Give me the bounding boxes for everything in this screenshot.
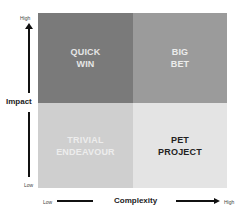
quadrant-big-bet: BIG BET [133, 13, 227, 103]
x-axis-line-right [176, 200, 214, 202]
quadrant-trivial-endeavour: TRIVIAL ENDEAVOUR [38, 103, 133, 188]
y-axis-line-lower [28, 112, 30, 177]
x-axis-arrow-icon [214, 198, 220, 204]
quadrant-label: BIG BET [171, 46, 190, 70]
x-axis-low-label: Low [43, 199, 52, 205]
x-axis-line-left [57, 200, 93, 202]
quadrant-label: TRIVIAL ENDEAVOUR [56, 134, 115, 158]
quadrant-label: PET PROJECT [158, 134, 202, 158]
y-axis-low-label: Low [24, 182, 33, 188]
y-axis-high-label: High [20, 15, 30, 21]
y-axis-title: Impact [6, 97, 32, 106]
y-axis-line-upper [28, 28, 30, 93]
x-axis-title: Complexity [114, 196, 157, 205]
quadrant-quick-win: QUICK WIN [38, 13, 133, 103]
quadrant-pet-project: PET PROJECT [133, 103, 227, 188]
quadrant-label: QUICK WIN [71, 46, 101, 70]
x-axis-high-label: High [224, 199, 234, 205]
